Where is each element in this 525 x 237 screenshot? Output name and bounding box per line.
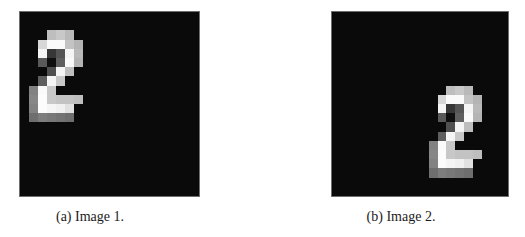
pixel-cell bbox=[385, 76, 394, 85]
pixel-cell bbox=[20, 30, 29, 39]
pixel-cell bbox=[411, 76, 420, 85]
pixel-cell bbox=[127, 58, 136, 67]
pixel-cell bbox=[172, 178, 181, 187]
pixel-cell bbox=[376, 122, 385, 131]
pixel-cell bbox=[47, 168, 56, 177]
pixel-cell bbox=[118, 178, 127, 187]
pixel-cell bbox=[127, 95, 136, 104]
pixel-cell bbox=[172, 168, 181, 177]
pixel-cell bbox=[65, 113, 74, 122]
pixel-cell bbox=[464, 58, 473, 67]
pixel-cell bbox=[394, 40, 403, 49]
pixel-cell bbox=[83, 104, 92, 113]
pixel-cell bbox=[74, 30, 83, 39]
pixel-cell bbox=[341, 49, 350, 58]
pixel-cell bbox=[190, 187, 199, 196]
pixel-cell bbox=[181, 122, 190, 131]
pixel-cell bbox=[127, 30, 136, 39]
pixel-cell bbox=[163, 104, 172, 113]
pixel-cell bbox=[47, 40, 56, 49]
pixel-cell bbox=[455, 40, 464, 49]
pixel-cell bbox=[127, 67, 136, 76]
pixel-cell bbox=[127, 49, 136, 58]
pixel-cell bbox=[367, 49, 376, 58]
pixel-cell bbox=[92, 104, 101, 113]
pixel-cell bbox=[38, 113, 47, 122]
pixel-cell bbox=[429, 21, 438, 30]
pixel-cell bbox=[181, 86, 190, 95]
pixel-cell bbox=[38, 132, 47, 141]
pixel-cell bbox=[367, 168, 376, 177]
pixel-cell bbox=[482, 86, 491, 95]
pixel-cell bbox=[56, 113, 65, 122]
pixel-cell bbox=[464, 21, 473, 30]
pixel-cell bbox=[394, 21, 403, 30]
pixel-cell bbox=[101, 122, 110, 131]
pixel-cell bbox=[20, 122, 29, 131]
pixel-cell bbox=[65, 76, 74, 85]
pixel-cell bbox=[127, 21, 136, 30]
pixel-cell bbox=[358, 178, 367, 187]
pixel-cell bbox=[20, 49, 29, 58]
pixel-cell bbox=[446, 76, 455, 85]
pixel-cell bbox=[145, 12, 154, 21]
pixel-cell bbox=[394, 122, 403, 131]
pixel-cell bbox=[47, 113, 56, 122]
pixel-cell bbox=[455, 86, 464, 95]
pixel-cell bbox=[101, 21, 110, 30]
pixel-cell bbox=[20, 132, 29, 141]
pixel-cell bbox=[127, 141, 136, 150]
pixel-cell bbox=[145, 58, 154, 67]
pixel-cell bbox=[473, 178, 482, 187]
pixel-cell bbox=[464, 132, 473, 141]
pixel-cell bbox=[341, 12, 350, 21]
pixel-cell bbox=[74, 67, 83, 76]
pixel-cell bbox=[154, 132, 163, 141]
pixel-cell bbox=[473, 122, 482, 131]
pixel-cell bbox=[56, 141, 65, 150]
pixel-cell bbox=[420, 30, 429, 39]
pixel-cell bbox=[83, 187, 92, 196]
pixel-cell bbox=[455, 104, 464, 113]
pixel-cell bbox=[429, 178, 438, 187]
pixel-cell bbox=[56, 21, 65, 30]
pixel-cell bbox=[385, 178, 394, 187]
pixel-cell bbox=[172, 95, 181, 104]
pixel-cell bbox=[145, 113, 154, 122]
pixel-cell bbox=[56, 76, 65, 85]
pixel-cell bbox=[101, 95, 110, 104]
pixel-cell bbox=[172, 113, 181, 122]
pixel-cell bbox=[402, 178, 411, 187]
pixel-cell bbox=[154, 49, 163, 58]
pixel-cell bbox=[420, 141, 429, 150]
pixel-cell bbox=[446, 49, 455, 58]
pixel-cell bbox=[145, 40, 154, 49]
pixel-cell bbox=[473, 168, 482, 177]
pixel-cell bbox=[385, 86, 394, 95]
pixel-cell bbox=[47, 21, 56, 30]
pixel-cell bbox=[190, 132, 199, 141]
pixel-cell bbox=[29, 113, 38, 122]
pixel-cell bbox=[65, 12, 74, 21]
pixel-cell bbox=[411, 141, 420, 150]
pixel-cell bbox=[464, 141, 473, 150]
pixel-cell bbox=[109, 141, 118, 150]
pixel-cell bbox=[482, 76, 491, 85]
pixel-cell bbox=[490, 132, 499, 141]
pixel-cell bbox=[438, 178, 447, 187]
pixel-cell bbox=[332, 159, 341, 168]
pixel-cell bbox=[446, 12, 455, 21]
pixel-cell bbox=[411, 12, 420, 21]
pixel-cell bbox=[411, 58, 420, 67]
pixel-cell bbox=[376, 159, 385, 168]
pixel-cell bbox=[402, 21, 411, 30]
pixel-cell bbox=[367, 30, 376, 39]
pixel-cell bbox=[350, 58, 359, 67]
pixel-cell bbox=[473, 86, 482, 95]
pixel-cell bbox=[65, 104, 74, 113]
pixel-cell bbox=[402, 113, 411, 122]
pixel-cell bbox=[350, 178, 359, 187]
pixel-cell bbox=[446, 67, 455, 76]
pixel-cell bbox=[332, 141, 341, 150]
pixel-cell bbox=[429, 58, 438, 67]
